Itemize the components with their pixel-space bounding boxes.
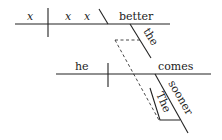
top-complement-word: better bbox=[119, 10, 154, 23]
sentence-diagram: x x x better the he comes sooner The bbox=[0, 0, 222, 140]
bottom-modifier-word-2: The bbox=[153, 90, 173, 114]
bottom-modifier-word-1: sooner bbox=[165, 78, 196, 118]
bottom-clause: he comes sooner The bbox=[56, 60, 211, 133]
top-complement-divider bbox=[99, 9, 108, 24]
connector-slant bbox=[115, 40, 160, 122]
top-modifier-word: the bbox=[140, 26, 161, 48]
top-subject-word: x bbox=[27, 10, 34, 23]
clause-connector bbox=[115, 40, 160, 122]
bottom-verb-word: comes bbox=[158, 60, 194, 73]
top-verb-word-2: x bbox=[84, 10, 91, 23]
top-verb-word-1: x bbox=[65, 10, 72, 23]
bottom-subject-word: he bbox=[75, 60, 89, 73]
top-clause: x x x better the bbox=[15, 8, 170, 58]
